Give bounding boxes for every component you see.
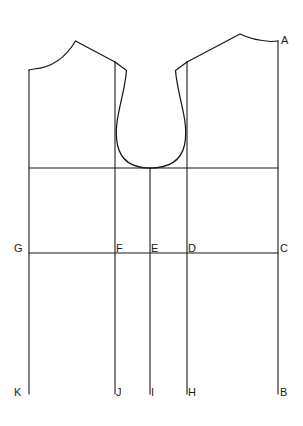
pattern-drawing: A G F E D C K J I H B: [0, 0, 303, 426]
left-neckline-shoulder-outline: [29, 41, 115, 70]
left-armhole-curve: [115, 62, 150, 168]
point-label-g: G: [14, 242, 23, 254]
point-label-b: B: [280, 386, 287, 398]
point-label-h: H: [188, 386, 196, 398]
point-label-f: F: [116, 242, 123, 254]
point-label-k: K: [14, 386, 22, 398]
point-label-i: I: [151, 386, 154, 398]
point-label-a: A: [281, 34, 289, 46]
point-label-e: E: [151, 242, 158, 254]
point-label-d: D: [188, 242, 196, 254]
point-label-j: J: [116, 386, 122, 398]
point-label-c: C: [280, 242, 288, 254]
right-armhole-curve: [150, 62, 187, 168]
pattern-diagram-canvas: A G F E D C K J I H B: [0, 0, 303, 426]
right-neckline-shoulder-outline: [187, 34, 278, 62]
